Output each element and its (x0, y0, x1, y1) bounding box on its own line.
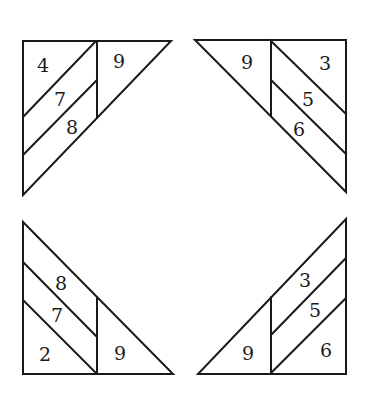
region-label: 6 (293, 118, 305, 140)
region-label: 9 (241, 51, 253, 73)
region-label: 8 (66, 116, 78, 138)
triangle-top-right: 9 3 5 6 (195, 40, 346, 192)
region-label: 7 (51, 304, 63, 326)
region-label: 2 (39, 343, 51, 365)
region-label: 9 (114, 342, 126, 364)
region-label: 3 (319, 52, 331, 74)
triangle-top-left: 4 7 8 9 (23, 41, 171, 195)
region-label: 9 (242, 342, 254, 364)
triangle-bottom-right: 3 5 9 6 (198, 219, 346, 374)
triangle-puzzle-diagram: 4 7 8 9 9 3 5 6 8 7 2 9 3 5 9 6 (0, 0, 368, 402)
region-label: 8 (55, 272, 67, 294)
region-label: 9 (113, 50, 125, 72)
triangle-bottom-left: 8 7 2 9 (23, 222, 173, 374)
region-label: 4 (37, 54, 49, 76)
region-label: 6 (320, 339, 332, 361)
region-label: 3 (299, 269, 311, 291)
region-label: 5 (302, 88, 314, 110)
region-label: 7 (54, 88, 66, 110)
region-label: 5 (309, 299, 321, 321)
